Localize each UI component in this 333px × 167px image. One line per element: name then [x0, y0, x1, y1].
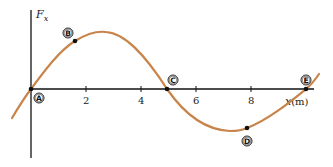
- point-e-marker: [304, 87, 309, 92]
- svg-text:C: C: [170, 76, 176, 85]
- point-label-c: C: [168, 75, 178, 85]
- svg-text:B: B: [65, 29, 71, 38]
- force-curve: [12, 32, 319, 131]
- point-label-d: D: [242, 136, 252, 146]
- tick-label-8: 8: [248, 95, 254, 106]
- tick-label-4: 4: [138, 95, 144, 106]
- point-a-marker: [29, 87, 34, 92]
- point-d-marker: [245, 126, 250, 131]
- point-label-b: B: [63, 28, 73, 38]
- point-label-e: E: [301, 75, 311, 85]
- svg-text:E: E: [303, 76, 308, 85]
- data-points: [29, 39, 309, 131]
- point-b-marker: [73, 39, 78, 44]
- svg-text:A: A: [36, 94, 42, 103]
- y-axis-label: Fx: [35, 8, 49, 23]
- svg-text:D: D: [244, 137, 250, 146]
- tick-label-2: 2: [83, 95, 89, 106]
- point-c-marker: [165, 87, 170, 92]
- point-label-a: A: [34, 93, 44, 103]
- force-position-chart: 2 4 6 8 Fx x(m) A B C D E: [0, 0, 333, 167]
- tick-label-6: 6: [193, 95, 199, 106]
